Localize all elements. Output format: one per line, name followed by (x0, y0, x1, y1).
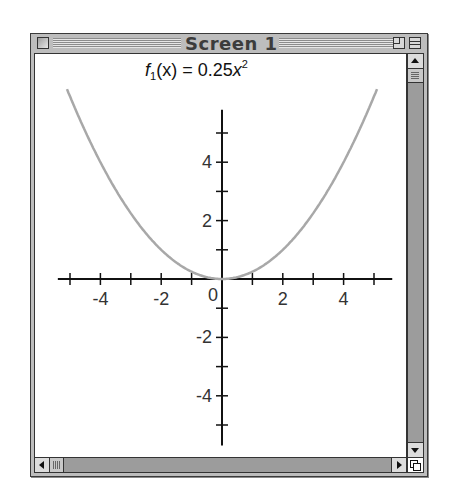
tick-label: 4 (202, 152, 212, 172)
vertical-scrollbar[interactable] (407, 53, 424, 458)
graph-window: Screen 1 -4-22442-2-40 f1(x) = 0.25x2 (30, 33, 428, 477)
title-stripes-right (279, 38, 397, 48)
collapse-box-icon[interactable] (409, 37, 421, 49)
tick-label: 2 (202, 211, 212, 231)
tick-label: -2 (196, 327, 212, 347)
graph-area: -4-22442-2-40 f1(x) = 0.25x2 (34, 53, 407, 458)
scroll-down-arrow-icon[interactable] (408, 442, 423, 457)
title-bar[interactable]: Screen 1 (31, 34, 427, 52)
resize-grow-box-icon[interactable] (407, 457, 424, 473)
scroll-left-arrow-icon[interactable] (35, 458, 50, 472)
tick-label: 0 (208, 285, 218, 305)
zoom-box-icon[interactable] (393, 37, 405, 49)
tick-label: 2 (278, 289, 288, 309)
scroll-up-arrow-icon[interactable] (408, 54, 423, 69)
horizontal-scrollbar[interactable] (34, 457, 407, 473)
vertical-scroll-thumb[interactable] (408, 69, 423, 83)
tick-label: -4 (92, 289, 108, 309)
tick-label: -2 (153, 289, 169, 309)
tick-label: -4 (196, 386, 212, 406)
axes (58, 110, 392, 446)
window-title: Screen 1 (185, 33, 278, 54)
function-plot: -4-22442-2-40 f1(x) = 0.25x2 (35, 54, 406, 457)
tick-label: 4 (339, 289, 349, 309)
horizontal-scroll-thumb[interactable] (50, 458, 64, 472)
scroll-right-arrow-icon[interactable] (391, 458, 406, 472)
close-box-icon[interactable] (37, 37, 49, 49)
function-label: f1(x) = 0.25x2 (145, 58, 248, 82)
title-stripes-left (53, 38, 181, 48)
